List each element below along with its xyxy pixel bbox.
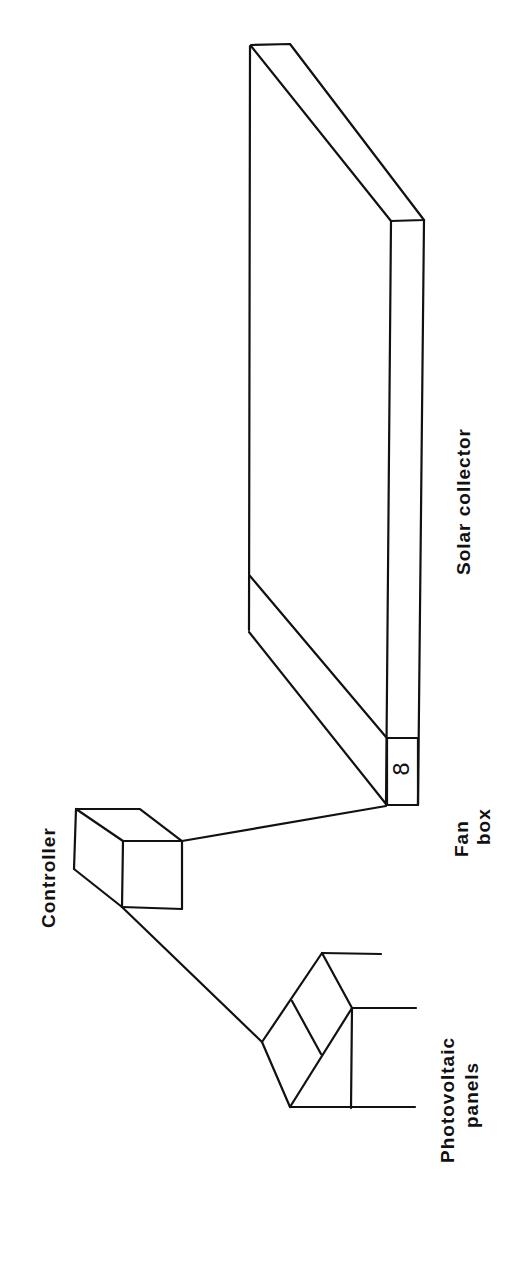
controller-label: Controller <box>38 827 59 928</box>
fan-box-label-line2: box <box>473 808 494 845</box>
wire-controller-to-fan <box>182 806 386 841</box>
fan-icon: 8 <box>389 762 414 776</box>
solar-heating-diagram: 8 Solar collector Fan box Controller Pho… <box>0 0 518 1274</box>
controller-box <box>74 809 182 909</box>
solar-collector-label: Solar collector <box>453 428 474 575</box>
photovoltaic-label-line2: panels <box>461 1062 482 1128</box>
fan-box: 8 <box>387 738 418 805</box>
photovoltaic-label-line1: Photovoltaic <box>437 1037 458 1163</box>
fan-box-label-line1: Fan <box>451 820 472 857</box>
wire-pv-to-controller <box>122 907 262 1042</box>
photovoltaic-panels <box>262 953 416 1108</box>
solar-collector <box>249 44 424 805</box>
